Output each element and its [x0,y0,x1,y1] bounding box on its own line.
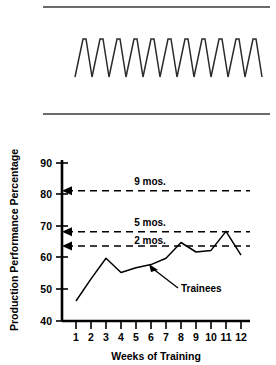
x-tick-label-12: 12 [235,331,247,343]
y-tick-label-80: 80 [40,188,52,200]
x-tick-label-8: 8 [178,331,184,343]
y-tick-label-60: 60 [40,251,52,263]
y-axis-title: Production Performance Percentage [8,149,20,331]
sawtooth-waveform [75,39,262,77]
x-tick-label-3: 3 [103,331,109,343]
reference-line-9-mos: 9 mos. [62,176,250,195]
reference-label-5-mos: 5 mos. [134,217,166,228]
reference-label-2-mos: 2 mos. [134,235,166,246]
y-tick-label-50: 50 [40,283,52,295]
x-tick-label-9: 9 [193,331,199,343]
y-tick-label-40: 40 [40,315,52,327]
x-tick-label-5: 5 [133,331,139,343]
arrow-head-2-mos [62,242,72,251]
annotation-label-trainees: Trainees [181,283,222,294]
figure-svg: 90 80 70 60 50 40 1 [0,0,276,365]
reference-label-9-mos: 9 mos. [134,176,166,187]
x-tick-label-1: 1 [73,331,79,343]
x-tick-label-6: 6 [148,331,154,343]
annotation-trainees: Trainees [149,264,222,294]
line-chart: 90 80 70 60 50 40 1 [8,149,250,362]
x-axis-title: Weeks of Training [111,350,201,362]
y-tick-label-90: 90 [40,157,52,169]
reference-line-5-mos: 5 mos. [62,217,250,236]
x-tick-label-10: 10 [205,331,217,343]
x-tick-label-11: 11 [220,331,231,343]
x-tick-label-7: 7 [163,331,169,343]
x-tick-label-2: 2 [88,331,94,343]
arrow-head-5-mos [62,227,72,236]
figure-container: 90 80 70 60 50 40 1 [0,0,276,365]
y-tick-label-70: 70 [40,220,52,232]
x-tick-label-4: 4 [118,331,124,343]
